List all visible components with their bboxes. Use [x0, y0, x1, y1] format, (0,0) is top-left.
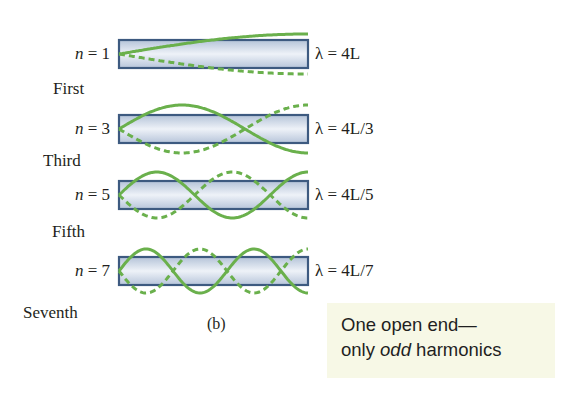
waves-group — [119, 34, 308, 293]
harmonic-1-n-label: n = 1 — [0, 44, 110, 64]
harmonic-3-n-label: n = 3 — [0, 119, 110, 139]
callout-line-2-suffix: harmonics — [411, 339, 501, 360]
figure-caption: (b) — [207, 315, 226, 333]
harmonic-7-ordinal: Seventh — [23, 303, 78, 323]
harmonic-5-n-label: n = 5 — [0, 185, 110, 205]
callout-text: One open end— only odd harmonics — [341, 312, 501, 362]
harmonic-7-n-label: n = 7 — [0, 261, 110, 281]
callout-box: One open end— only odd harmonics — [327, 303, 555, 378]
callout-emphasis: odd — [380, 339, 411, 360]
harmonic-3-wavelength: λ = 4L/3 — [315, 119, 373, 139]
callout-line-1: One open end— — [341, 314, 477, 335]
harmonic-1-ordinal: First — [53, 79, 84, 99]
harmonic-1-wavelength: λ = 4L — [315, 44, 360, 64]
harmonic-5-wavelength: λ = 4L/5 — [315, 185, 373, 205]
tube-n1 — [119, 40, 308, 68]
callout-line-2-prefix: only — [341, 339, 380, 360]
harmonic-7-wavelength: λ = 4L/7 — [315, 261, 373, 281]
harmonic-5-ordinal: Fifth — [52, 222, 85, 242]
harmonic-3-ordinal: Third — [43, 151, 81, 171]
tube-n3 — [119, 115, 308, 143]
